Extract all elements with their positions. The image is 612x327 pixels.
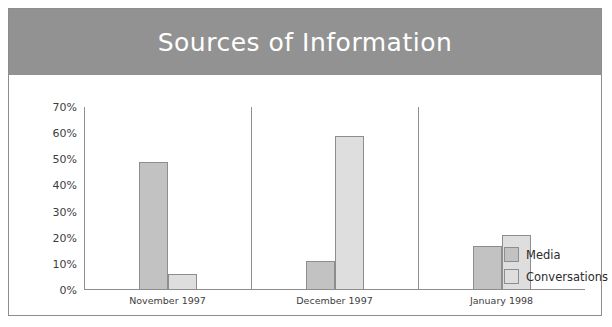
y-axis-tick-label: 0% bbox=[60, 284, 77, 297]
y-axis-tick-labels: 0%10%20%30%40%50%60%70% bbox=[31, 107, 77, 289]
bar-group bbox=[306, 107, 364, 290]
bar-conversations-0 bbox=[168, 274, 197, 290]
legend-item-conversations[interactable]: Conversations bbox=[504, 269, 608, 284]
category-label: January 1998 bbox=[470, 295, 533, 306]
bar-media-0 bbox=[139, 162, 168, 290]
chart-title: Sources of Information bbox=[158, 28, 453, 57]
slide-canvas: Sources of Information 0%10%20%30%40%50%… bbox=[0, 0, 612, 327]
y-axis-tick-label: 10% bbox=[53, 257, 77, 270]
category-label: November 1997 bbox=[129, 295, 206, 306]
y-axis-tick-label: 40% bbox=[53, 179, 77, 192]
chart-legend: MediaConversations bbox=[504, 247, 608, 291]
chart-figure-frame: Sources of Information 0%10%20%30%40%50%… bbox=[8, 8, 602, 316]
y-axis-tick-label: 50% bbox=[53, 153, 77, 166]
legend-swatch-icon bbox=[504, 269, 519, 284]
bar-media-2 bbox=[473, 246, 502, 290]
category-label: December 1997 bbox=[296, 295, 372, 306]
y-axis-tick-label: 70% bbox=[53, 101, 77, 114]
y-axis-tick-label: 30% bbox=[53, 205, 77, 218]
y-axis-tick-label: 60% bbox=[53, 127, 77, 140]
plot-area: 0%10%20%30%40%50%60%70% November 1997Dec… bbox=[9, 75, 601, 315]
legend-label: Media bbox=[526, 248, 561, 262]
chart-title-band: Sources of Information bbox=[9, 9, 601, 75]
legend-swatch-icon bbox=[504, 247, 519, 262]
bar-conversations-1 bbox=[335, 136, 364, 290]
y-axis-tick-label: 20% bbox=[53, 231, 77, 244]
bar-group bbox=[139, 107, 197, 290]
legend-label: Conversations bbox=[526, 270, 608, 284]
bar-media-1 bbox=[306, 261, 335, 290]
legend-item-media[interactable]: Media bbox=[504, 247, 608, 262]
